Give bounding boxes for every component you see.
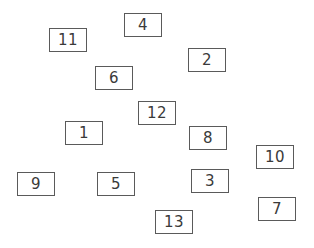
box-9[interactable]: 9: [17, 172, 55, 196]
box-10[interactable]: 10: [256, 145, 294, 169]
box-5[interactable]: 5: [97, 172, 135, 196]
numbered-boxes-canvas: 4 11 2 6 12 1 8 10 3 9 5 7 13: [0, 0, 314, 248]
box-13[interactable]: 13: [155, 210, 193, 234]
box-12[interactable]: 12: [138, 101, 176, 125]
box-1[interactable]: 1: [65, 121, 103, 145]
box-4[interactable]: 4: [124, 13, 162, 37]
box-11[interactable]: 11: [49, 28, 87, 52]
box-7[interactable]: 7: [258, 197, 296, 221]
box-2[interactable]: 2: [188, 48, 226, 72]
box-3[interactable]: 3: [191, 169, 229, 193]
box-6[interactable]: 6: [95, 66, 133, 90]
box-8[interactable]: 8: [189, 126, 227, 150]
